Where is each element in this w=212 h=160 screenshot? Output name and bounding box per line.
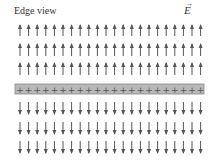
arrow-down-icon xyxy=(164,149,168,154)
plus-charge-icon: + xyxy=(68,85,76,95)
arrow-down-icon xyxy=(181,110,185,115)
arrow-down-icon xyxy=(156,110,160,115)
arrow-down-icon xyxy=(27,130,31,135)
arrow-up-icon xyxy=(147,24,151,29)
arrow-up-icon xyxy=(52,24,56,29)
arrow-up-icon xyxy=(113,62,117,67)
arrow-up-icon xyxy=(121,62,125,67)
arrow-down-icon xyxy=(138,110,142,115)
arrow-up-icon xyxy=(27,62,31,67)
arrow-up-icon xyxy=(130,24,134,29)
plus-charge-icon: + xyxy=(51,85,59,95)
arrow-down-icon xyxy=(18,110,22,115)
arrow-down-icon xyxy=(199,130,203,135)
arrow-up-icon xyxy=(156,43,160,48)
arrow-up-icon xyxy=(44,24,48,29)
arrow-down-icon xyxy=(35,110,39,115)
arrow-down-icon xyxy=(61,110,65,115)
arrow-up-icon xyxy=(61,24,65,29)
plus-charge-icon: + xyxy=(16,85,24,95)
arrow-up-icon xyxy=(147,43,151,48)
arrow-up-icon xyxy=(181,43,185,48)
plus-charge-icon: + xyxy=(76,85,84,95)
arrow-down-icon xyxy=(138,149,142,154)
plus-charge-icon: + xyxy=(25,85,33,95)
arrow-down-icon xyxy=(181,149,185,154)
arrow-up-icon xyxy=(156,62,160,67)
arrow-up-icon xyxy=(138,62,142,67)
arrow-down-icon xyxy=(87,149,91,154)
arrow-up-icon xyxy=(87,24,91,29)
plus-charge-icon: + xyxy=(85,85,93,95)
plus-charge-icon: + xyxy=(145,85,153,95)
plus-charge-icon: + xyxy=(162,85,170,95)
plus-charge-icon: + xyxy=(128,85,136,95)
arrow-up-icon xyxy=(130,43,134,48)
arrow-down-icon xyxy=(130,130,134,135)
arrow-down-icon xyxy=(164,130,168,135)
arrow-down-icon xyxy=(156,149,160,154)
arrow-up-icon xyxy=(181,62,185,67)
arrow-down-icon xyxy=(27,149,31,154)
arrow-down-icon xyxy=(130,110,134,115)
arrow-down-icon xyxy=(78,110,82,115)
arrow-up-icon xyxy=(104,62,108,67)
arrow-up-icon xyxy=(27,24,31,29)
arrow-down-icon xyxy=(27,110,31,115)
arrow-up-icon xyxy=(173,24,177,29)
arrow-up-icon xyxy=(164,43,168,48)
plus-charge-icon: + xyxy=(59,85,67,95)
arrow-down-icon xyxy=(61,130,65,135)
arrow-down-icon xyxy=(113,149,117,154)
arrow-up-icon xyxy=(35,62,39,67)
arrow-down-icon xyxy=(78,130,82,135)
arrow-up-icon xyxy=(27,43,31,48)
arrow-up-icon xyxy=(44,62,48,67)
arrow-up-icon xyxy=(164,24,168,29)
arrow-up-icon xyxy=(121,43,125,48)
arrow-up-icon xyxy=(113,24,117,29)
arrow-down-icon xyxy=(156,130,160,135)
arrow-down-icon xyxy=(147,149,151,154)
arrow-up-icon xyxy=(190,43,194,48)
arrow-down-icon xyxy=(35,130,39,135)
arrow-down-icon xyxy=(190,110,194,115)
arrow-up-icon xyxy=(61,43,65,48)
arrow-up-icon xyxy=(164,62,168,67)
plus-charge-icon: + xyxy=(180,85,188,95)
arrow-down-icon xyxy=(61,149,65,154)
arrow-down-icon xyxy=(95,149,99,154)
arrow-down-icon xyxy=(95,130,99,135)
arrow-up-icon xyxy=(52,62,56,67)
plus-charge-icon: + xyxy=(197,85,205,95)
arrow-up-icon xyxy=(138,24,142,29)
arrow-up-icon xyxy=(87,62,91,67)
arrow-down-icon xyxy=(138,130,142,135)
arrow-up-icon xyxy=(173,62,177,67)
arrow-down-icon xyxy=(70,110,74,115)
arrow-down-icon xyxy=(173,149,177,154)
plus-charge-icon: + xyxy=(154,85,162,95)
arrow-up-icon xyxy=(181,24,185,29)
plus-charge-icon: + xyxy=(111,85,119,95)
arrow-up-icon xyxy=(190,24,194,29)
arrow-up-icon xyxy=(18,24,22,29)
arrow-down-icon xyxy=(113,110,117,115)
arrow-up-icon xyxy=(130,62,134,67)
field-diagram: ++++++++++++++++++++++ xyxy=(0,0,212,160)
arrow-up-icon xyxy=(190,62,194,67)
arrow-down-icon xyxy=(52,130,56,135)
arrow-up-icon xyxy=(78,24,82,29)
arrow-up-icon xyxy=(52,43,56,48)
arrow-up-icon xyxy=(61,62,65,67)
arrow-down-icon xyxy=(190,149,194,154)
arrow-up-icon xyxy=(18,43,22,48)
arrow-up-icon xyxy=(70,43,74,48)
arrow-up-icon xyxy=(156,24,160,29)
arrow-up-icon xyxy=(104,43,108,48)
arrow-down-icon xyxy=(173,130,177,135)
arrow-down-icon xyxy=(130,149,134,154)
arrow-up-icon xyxy=(78,43,82,48)
arrow-up-icon xyxy=(87,43,91,48)
arrow-down-icon xyxy=(87,130,91,135)
